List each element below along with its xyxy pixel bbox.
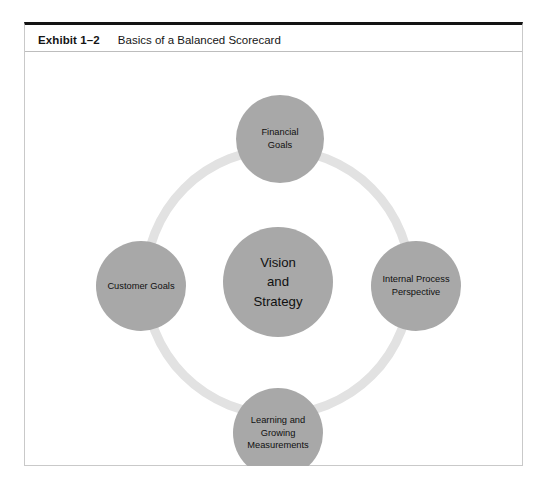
node-financial-goals: Financial Goals	[236, 95, 324, 183]
node-label-learning-and-growing-measurements: Learning and Growing Measurements	[242, 414, 314, 452]
node-label-vision-and-strategy: Vision and Strategy	[248, 253, 307, 311]
node-internal-process-perspective: Internal Process Perspective	[371, 241, 461, 331]
exhibit-title: Basics of a Balanced Scorecard	[118, 34, 281, 46]
exhibit-number: Exhibit 1–2	[38, 34, 100, 46]
exhibit-frame: Exhibit 1–2 Basics of a Balanced Scoreca…	[24, 22, 523, 466]
exhibit-header: Exhibit 1–2 Basics of a Balanced Scoreca…	[25, 28, 522, 52]
node-customer-goals: Customer Goals	[96, 241, 186, 331]
node-label-financial-goals: Financial Goals	[256, 126, 303, 152]
balanced-scorecard-diagram: Vision and Strategy Financial Goals Cust…	[25, 53, 522, 466]
node-vision-and-strategy: Vision and Strategy	[223, 227, 333, 337]
node-label-internal-process-perspective: Internal Process Perspective	[377, 273, 454, 299]
node-label-customer-goals: Customer Goals	[102, 280, 179, 293]
